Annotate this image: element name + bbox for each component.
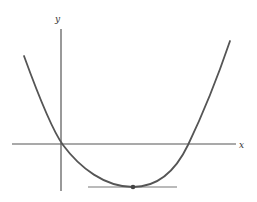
x-axis-label: x	[239, 140, 244, 150]
y-axis-label: y	[54, 14, 61, 24]
minimum-point-dot	[131, 185, 136, 190]
parabola-diagram: y x	[0, 0, 257, 202]
parabola-curve	[24, 41, 230, 187]
